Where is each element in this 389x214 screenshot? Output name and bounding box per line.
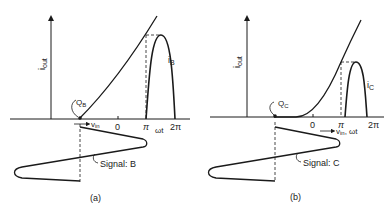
- signal-label: Signal: B: [100, 159, 136, 169]
- tick-label-0: 0: [310, 120, 315, 130]
- signal-leader: [296, 153, 301, 162]
- signal-label: Signal: C: [303, 158, 340, 168]
- panel-a: iout QB iB 0 π 2π ωt vin Signal: B (a): [10, 16, 190, 203]
- caption-a: (a): [90, 193, 101, 203]
- q-leader: [270, 102, 274, 115]
- pulse-label: iC: [367, 80, 374, 91]
- panel-b: iout QC iC 0 π 2π vin, ωt Signal: C (b): [209, 18, 385, 202]
- pulse-label: iB: [168, 55, 175, 66]
- transfer-curve: [79, 16, 157, 119]
- tick-label-2pi: 2π: [368, 120, 379, 130]
- q-point: [78, 116, 82, 120]
- output-pulse: [146, 35, 175, 119]
- vin-wt-label: vin, ωt: [336, 127, 358, 136]
- vin-label: vin: [91, 120, 100, 129]
- output-pulse: [345, 62, 367, 117]
- wt-label: ωt: [155, 126, 164, 135]
- tick-label-0: 0: [115, 122, 120, 132]
- tick-label-pi: π: [143, 122, 150, 132]
- input-signal-waveform: [209, 127, 340, 181]
- input-signal-waveform: [15, 127, 147, 181]
- tick-label-2pi: 2π: [170, 122, 181, 132]
- y-axis-label: iout: [232, 56, 243, 68]
- y-axis-label: iout: [37, 58, 48, 70]
- caption-b: (b): [290, 192, 301, 202]
- q-label: QB: [76, 98, 86, 108]
- amplifier-class-diagram: iout QB iB 0 π 2π ωt vin Signal: B (a): [0, 0, 389, 214]
- q-label: QC: [278, 99, 289, 109]
